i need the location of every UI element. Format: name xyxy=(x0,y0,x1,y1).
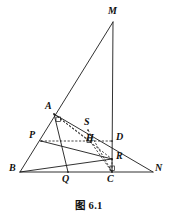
point-label-Q: Q xyxy=(62,174,69,184)
point-label-S: S xyxy=(84,117,90,127)
segment-AQ xyxy=(54,114,68,172)
point-label-D: D xyxy=(116,132,123,142)
point-label-A: A xyxy=(45,101,52,111)
vertex-dot-R xyxy=(111,158,113,160)
segment-AN xyxy=(54,114,153,172)
vertex-dot-P xyxy=(40,140,42,142)
point-label-M: M xyxy=(108,6,117,16)
figure-container: MASHDPRBQCN 图 6.1 xyxy=(0,0,178,216)
point-label-N: N xyxy=(155,163,162,173)
geometry-diagram xyxy=(0,0,178,216)
segment-MC xyxy=(112,22,113,172)
figure-caption: 图 6.1 xyxy=(0,197,178,212)
dashed-lines-group xyxy=(41,114,112,172)
point-label-R: R xyxy=(116,151,123,161)
segment-PR xyxy=(41,141,112,159)
vertex-dot-A xyxy=(53,113,55,115)
point-label-H: H xyxy=(86,133,94,143)
solid-lines-group xyxy=(20,22,153,172)
vertex-dot-S xyxy=(87,129,89,131)
segment-AR-dashed xyxy=(54,114,112,159)
point-label-C: C xyxy=(107,174,114,184)
point-label-B: B xyxy=(9,163,16,173)
point-label-P: P xyxy=(29,130,35,140)
segment-BM xyxy=(20,22,113,172)
vertex-dot-D xyxy=(111,140,113,142)
segment-BR xyxy=(20,159,112,172)
